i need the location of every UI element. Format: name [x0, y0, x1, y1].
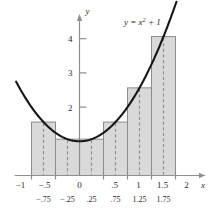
midpoint-tick-label: .75: [111, 195, 121, 204]
riemann-sum-figure: 234−1−.50.511.52−.75−.25.25.751.251.75yx…: [0, 0, 213, 213]
x-tick-label: 0: [77, 180, 82, 190]
equation-label: y = x2 + 1: [123, 16, 161, 27]
x-tick-label: −.5: [39, 180, 51, 190]
chart-canvas: 234−1−.50.511.52−.75−.25.25.751.251.75yx…: [0, 0, 213, 213]
x-tick-label: −1: [16, 180, 26, 190]
y-tick-label: 4: [68, 34, 73, 44]
midpoint-tick-label: 1.75: [157, 195, 171, 204]
y-tick-label: 2: [68, 103, 73, 113]
midpoint-tick-label: −.25: [60, 195, 75, 204]
y-tick-label: 3: [68, 68, 73, 78]
x-tick-label: 2: [184, 180, 189, 190]
x-axis-arrow: [199, 173, 205, 178]
x-tick-label: 1: [136, 180, 141, 190]
y-axis-arrow: [77, 14, 82, 21]
x-tick-label: 1.5: [157, 180, 169, 190]
midpoint-tick-label: .25: [87, 195, 97, 204]
y-axis-name: y: [85, 6, 90, 16]
x-axis-name: x: [200, 180, 205, 190]
x-tick-label: .5: [111, 180, 118, 190]
midpoint-tick-label: −.75: [36, 195, 51, 204]
midpoint-tick-label: 1.25: [133, 195, 147, 204]
